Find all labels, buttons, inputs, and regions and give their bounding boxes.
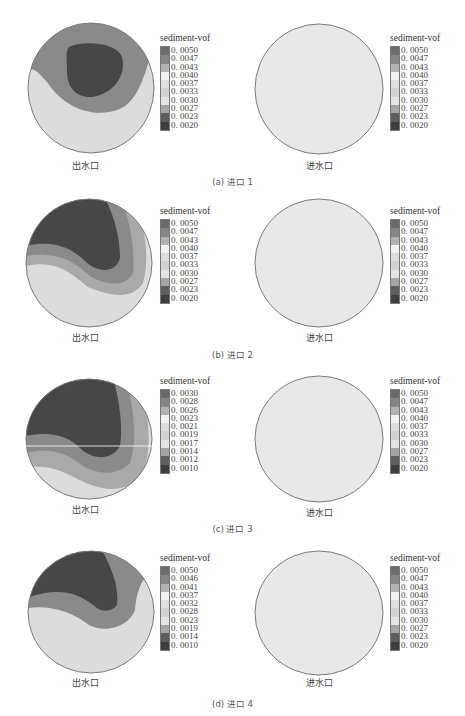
- panel-c: 出水口 sediment-vof 0. 00300. 00280. 00260.…: [0, 370, 465, 550]
- legend-swatch: [391, 608, 399, 616]
- inlet-legend: sediment-vof 0. 00500. 00470. 00430. 004…: [390, 376, 465, 474]
- legend-title: sediment-vof: [390, 376, 465, 387]
- outlet-label: 出水口: [72, 503, 99, 516]
- legend-swatch: [161, 423, 169, 431]
- legend-swatch: [161, 448, 169, 456]
- outlet-contour-plot: [25, 198, 153, 328]
- legend-swatch: [391, 237, 399, 245]
- legend-swatch: [391, 72, 399, 80]
- inlet-label: 进水口: [306, 676, 333, 689]
- inlet-label: 进水口: [306, 159, 333, 172]
- legend-swatch: [391, 105, 399, 113]
- legend-swatch: [161, 398, 169, 406]
- legend-title: sediment-vof: [160, 553, 240, 564]
- legend-swatch: [391, 465, 399, 473]
- outlet-label: 出水口: [72, 676, 99, 689]
- legend-swatch: [161, 456, 169, 464]
- legend-swatch: [161, 47, 169, 55]
- legend-swatch: [391, 440, 399, 448]
- legend-swatch: [161, 407, 169, 415]
- legend-swatch: [391, 448, 399, 456]
- legend-tick-label: 0. 0020: [401, 464, 428, 472]
- legend-swatch: [161, 228, 169, 236]
- inlet-label: 进水口: [306, 506, 333, 519]
- legend-swatch: [391, 278, 399, 286]
- panel-a: 出水口 sediment-vof 0. 00500. 00470. 00430.…: [0, 0, 465, 190]
- legend-swatch: [391, 415, 399, 423]
- legend-swatch: [391, 456, 399, 464]
- legend-swatch: [391, 398, 399, 406]
- legend-swatch: [391, 261, 399, 269]
- legend-tick-label: 0. 0010: [171, 464, 198, 472]
- legend-swatch: [391, 567, 399, 575]
- legend-ticks: 0. 00500. 00460. 00410. 00370. 00320. 00…: [171, 566, 198, 651]
- legend-ticks: 0. 00500. 00470. 00430. 00400. 00370. 00…: [401, 46, 428, 131]
- inlet-legend: sediment-vof 0. 00500. 00470. 00430. 004…: [390, 553, 465, 651]
- outlet-legend: sediment-vof 0. 00500. 00470. 00430. 004…: [160, 206, 240, 304]
- inlet-contour-plot: [254, 375, 384, 503]
- legend-swatch: [161, 237, 169, 245]
- legend-swatch: [161, 278, 169, 286]
- legend-swatch: [161, 113, 169, 121]
- legend-swatch: [161, 625, 169, 633]
- legend-swatch: [391, 97, 399, 105]
- legend-ticks: 0. 00500. 00470. 00430. 00400. 00370. 00…: [401, 566, 428, 651]
- legend-swatch: [391, 113, 399, 121]
- panel-b: 出水口 sediment-vof 0. 00500. 00470. 00430.…: [0, 190, 465, 370]
- legend-swatch: [391, 80, 399, 88]
- legend-swatch: [391, 617, 399, 625]
- legend-swatch: [161, 567, 169, 575]
- inlet-contour-plot: [254, 550, 384, 676]
- caption-b: (b) 进口 2: [0, 348, 465, 360]
- legend-swatch: [161, 105, 169, 113]
- legend-swatch: [391, 423, 399, 431]
- legend-ticks: 0. 00500. 00470. 00430. 00400. 00370. 00…: [401, 389, 428, 474]
- legend-swatch: [161, 465, 169, 473]
- legend-swatch: [161, 64, 169, 72]
- color-scale: [160, 566, 170, 651]
- legend-tick-label: 0. 0020: [401, 641, 428, 649]
- legend-swatch: [161, 245, 169, 253]
- caption-c: (c) 进口 3: [0, 522, 465, 534]
- legend-swatch: [391, 625, 399, 633]
- outlet-contour-plot: [27, 22, 155, 154]
- legend-swatch: [391, 407, 399, 415]
- legend-swatch: [161, 220, 169, 228]
- legend-ticks: 0. 00500. 00470. 00430. 00400. 00370. 00…: [171, 219, 198, 304]
- legend-swatch: [161, 55, 169, 63]
- legend-swatch: [391, 600, 399, 608]
- legend-swatch: [391, 228, 399, 236]
- outlet-contour-plot: [25, 378, 153, 500]
- legend-swatch: [161, 440, 169, 448]
- legend-swatch: [391, 575, 399, 583]
- legend-tick-label: 0. 0020: [401, 121, 428, 129]
- legend-swatch: [161, 431, 169, 439]
- legend-title: sediment-vof: [160, 206, 240, 217]
- legend-tick-label: 0. 0020: [401, 294, 428, 302]
- legend-swatch: [161, 390, 169, 398]
- legend-swatch: [391, 64, 399, 72]
- legend-swatch: [391, 253, 399, 261]
- legend-swatch: [161, 575, 169, 583]
- legend-swatch: [391, 642, 399, 650]
- legend-swatch: [161, 253, 169, 261]
- legend-swatch: [391, 47, 399, 55]
- legend-swatch: [391, 633, 399, 641]
- outlet-legend: sediment-vof 0. 00500. 00460. 00410. 003…: [160, 553, 240, 651]
- legend-ticks: 0. 00500. 00470. 00430. 00400. 00370. 00…: [171, 46, 198, 131]
- legend-swatch: [391, 88, 399, 96]
- legend-swatch: [391, 245, 399, 253]
- legend-tick-label: 0. 0010: [171, 641, 198, 649]
- legend-swatch: [161, 633, 169, 641]
- legend-swatch: [391, 55, 399, 63]
- legend-tick-label: 0. 0020: [171, 294, 198, 302]
- legend-swatch: [391, 584, 399, 592]
- legend-swatch: [161, 286, 169, 294]
- legend-swatch: [161, 88, 169, 96]
- color-scale: [390, 46, 400, 131]
- legend-title: sediment-vof: [390, 33, 465, 44]
- legend-swatch: [161, 584, 169, 592]
- color-scale: [390, 389, 400, 474]
- legend-swatch: [391, 592, 399, 600]
- legend-swatch: [161, 97, 169, 105]
